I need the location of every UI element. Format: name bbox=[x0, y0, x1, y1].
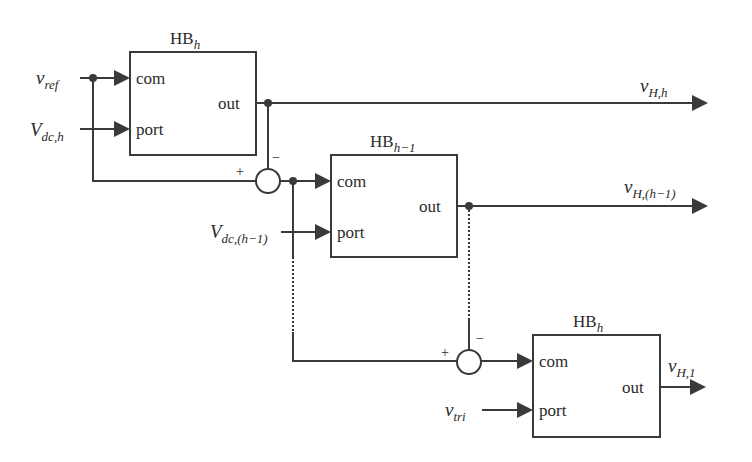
hb-top-com-label: com bbox=[136, 69, 165, 88]
summer-1-plus: + bbox=[236, 164, 244, 179]
arrow-head-icon bbox=[517, 353, 533, 369]
hb-top-out-label: out bbox=[218, 94, 240, 113]
hb-bottom-out-label: out bbox=[622, 378, 644, 397]
hb-top-port-label: port bbox=[136, 120, 164, 139]
vref-label: vref bbox=[36, 67, 61, 92]
vH-h-label: vH,h bbox=[640, 75, 668, 100]
hb-bottom-title: HBh bbox=[573, 312, 603, 335]
vH-1-label: vH,1 bbox=[668, 355, 696, 380]
hb-middle-port-label: port bbox=[337, 223, 365, 242]
arrow-head-icon bbox=[517, 402, 533, 418]
hb-top-title: HBh bbox=[170, 29, 200, 52]
junction-dot-out-middle bbox=[465, 202, 473, 210]
arrow-head-icon bbox=[315, 224, 331, 240]
summer-1-minus: − bbox=[272, 150, 280, 165]
block-diagram: HBh com port out vref Vdc,h vH,h + − HBh… bbox=[0, 0, 752, 462]
hb-middle-out-label: out bbox=[419, 197, 441, 216]
summer-2-minus: − bbox=[476, 331, 484, 346]
hb-block-top: HBh com port out bbox=[130, 29, 256, 155]
error-1-branch-to-summer-2 bbox=[293, 332, 457, 361]
summer-1 bbox=[256, 169, 280, 193]
vH-h1-label: vH,(h−1) bbox=[624, 176, 676, 201]
arrow-head-icon bbox=[692, 198, 708, 214]
vtri-label: vtri bbox=[445, 399, 466, 424]
vdc-h-label: Vdc,h bbox=[30, 119, 64, 144]
hb-bottom-port-label: port bbox=[539, 401, 567, 420]
hb-block-bottom: HBh com port out bbox=[533, 312, 660, 437]
arrow-head-icon bbox=[690, 379, 706, 395]
hb-middle-com-label: com bbox=[337, 172, 366, 191]
hb-block-middle: HBh−1 com port out bbox=[331, 132, 457, 257]
summer-2-plus: + bbox=[441, 345, 449, 360]
arrow-head-icon bbox=[315, 173, 331, 189]
arrow-head-icon bbox=[114, 70, 130, 86]
summer-2 bbox=[457, 350, 481, 374]
arrow-head-icon bbox=[114, 121, 130, 137]
hb-bottom-com-label: com bbox=[539, 352, 568, 371]
vdc-h1-label: Vdc,(h−1) bbox=[210, 221, 268, 246]
hb-middle-title: HBh−1 bbox=[370, 132, 415, 155]
arrow-head-icon bbox=[692, 95, 708, 111]
